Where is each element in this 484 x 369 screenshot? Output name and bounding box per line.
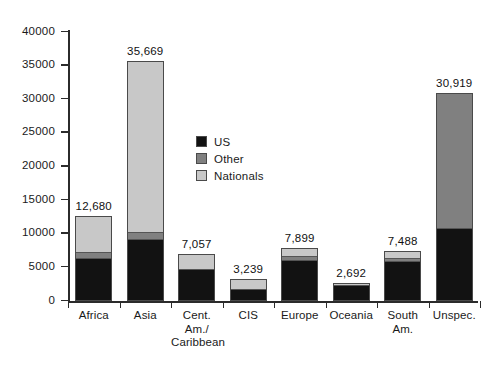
y-axis-tick: 10000: [61, 232, 68, 233]
x-axis-tick: [223, 301, 224, 308]
x-axis-category-label: Europe: [274, 309, 326, 323]
y-axis-tick-label: 20000: [22, 159, 55, 171]
stacked-bar[interactable]: [230, 279, 267, 301]
x-axis-category-label: CIS: [223, 309, 275, 323]
bar-group: 30,919: [436, 93, 473, 301]
legend-swatch-icon: [196, 136, 207, 147]
y-axis-tick: 30000: [61, 98, 68, 99]
bar-segment-us: [385, 262, 420, 300]
bar-segment-nationals: [385, 252, 420, 260]
x-axis-category-label-line: Europe: [274, 309, 326, 323]
bar-value-label: 12,680: [76, 200, 112, 212]
y-axis-tick-label: 0: [48, 294, 55, 306]
legend-item[interactable]: Nationals: [196, 167, 264, 184]
y-axis-tick-label: 15000: [22, 193, 55, 205]
stacked-bar[interactable]: [178, 254, 215, 301]
y-axis-tick-label: 5000: [29, 260, 55, 272]
y-axis-tick: 35000: [61, 64, 68, 65]
x-axis-tick: [429, 301, 430, 308]
bar-group: 7,899: [281, 248, 318, 301]
x-axis-category-label: Oceania: [326, 309, 378, 323]
stacked-bar[interactable]: [127, 61, 164, 301]
legend-item[interactable]: US: [196, 133, 264, 150]
x-axis-category-label-line: Cent.: [171, 309, 223, 323]
x-axis-tick: [120, 301, 121, 308]
bar-segment-us: [231, 290, 266, 300]
y-axis-tick: 25000: [61, 131, 68, 132]
x-axis-category-label-line: Africa: [68, 309, 120, 323]
x-axis-tick: [68, 301, 69, 308]
bar-value-label: 7,057: [182, 238, 212, 250]
chart-legend: USOtherNationals: [196, 133, 264, 184]
x-axis-category-label: Cent.Am./Caribbean: [171, 309, 223, 350]
x-axis-category-label-line: CIS: [223, 309, 275, 323]
x-axis-category-label-line: Am./: [171, 323, 223, 337]
x-axis-category-label-line: Caribbean: [171, 336, 223, 350]
y-axis-tick-label: 10000: [22, 226, 55, 238]
legend-item-label: Nationals: [214, 170, 264, 182]
bar-segment-us: [76, 259, 111, 300]
plot-area: 0500010000150002000025000300003500040000…: [68, 32, 480, 301]
x-axis-tick: [274, 301, 275, 308]
bar-group: 12,680: [75, 216, 112, 301]
bar-segment-other: [76, 253, 111, 260]
legend-item[interactable]: Other: [196, 150, 264, 167]
bar-segment-nationals: [231, 280, 266, 289]
bar-group: 35,669: [127, 61, 164, 301]
bar-segment-other: [437, 94, 472, 229]
x-axis-tick: [326, 301, 327, 308]
stacked-bar[interactable]: [75, 216, 112, 301]
bar-segment-us: [282, 261, 317, 300]
bar-value-label: 35,669: [127, 45, 163, 57]
x-axis-category-label: Unspec.: [429, 309, 481, 323]
x-axis-category-label: Africa: [68, 309, 120, 323]
bar-segment-us: [179, 270, 214, 300]
x-axis-category-label-line: South: [377, 309, 429, 323]
bar-segment-nationals: [128, 62, 163, 233]
bar-value-label: 30,919: [436, 77, 472, 89]
x-axis-tick: [480, 301, 481, 308]
y-axis-tick: 40000: [61, 31, 68, 32]
stacked-bar[interactable]: [333, 283, 370, 301]
bar-segment-nationals: [179, 255, 214, 271]
legend-item-label: Other: [214, 153, 244, 165]
y-axis-tick-label: 35000: [22, 58, 55, 70]
bar-segment-nationals: [76, 217, 111, 253]
bar-value-label: 7,899: [285, 232, 315, 244]
x-axis-category-label-line: Am.: [377, 323, 429, 337]
x-axis-tick: [377, 301, 378, 308]
x-axis-category-label-line: Asia: [120, 309, 172, 323]
y-axis-tick-label: 30000: [22, 92, 55, 104]
x-axis-category-label-line: Oceania: [326, 309, 378, 323]
legend-swatch-icon: [196, 153, 207, 164]
bar-group: 7,057: [178, 254, 215, 301]
stacked-bar[interactable]: [281, 248, 318, 301]
legend-swatch-icon: [196, 170, 207, 181]
bar-value-label: 3,239: [233, 263, 263, 275]
stacked-bar[interactable]: [436, 93, 473, 301]
y-axis-tick-label: 40000: [22, 25, 55, 37]
bar-segment-nationals: [282, 249, 317, 257]
bar-value-label: 2,692: [336, 267, 366, 279]
bar-segment-other: [128, 233, 163, 240]
bar-group: 3,239: [230, 279, 267, 301]
y-axis-tick: 20000: [61, 165, 68, 166]
stacked-bar-chart: 0500010000150002000025000300003500040000…: [0, 0, 484, 369]
y-axis-tick: 15000: [61, 199, 68, 200]
x-axis-category-label: Asia: [120, 309, 172, 323]
bar-value-label: 7,488: [388, 235, 418, 247]
x-axis-category-label-line: Unspec.: [429, 309, 481, 323]
x-axis-category-label: SouthAm.: [377, 309, 429, 336]
bar-segment-us: [334, 286, 369, 300]
bar-segment-us: [128, 240, 163, 300]
legend-item-label: US: [214, 136, 230, 148]
x-axis-tick: [171, 301, 172, 308]
y-axis-tick: 0: [61, 300, 68, 301]
stacked-bar[interactable]: [384, 251, 421, 301]
bar-group: 7,488: [384, 251, 421, 301]
y-axis-tick-label: 25000: [22, 125, 55, 137]
bar-group: 2,692: [333, 283, 370, 301]
bar-segment-us: [437, 229, 472, 300]
x-axis-line: [68, 301, 478, 303]
y-axis-tick: 5000: [61, 266, 68, 267]
